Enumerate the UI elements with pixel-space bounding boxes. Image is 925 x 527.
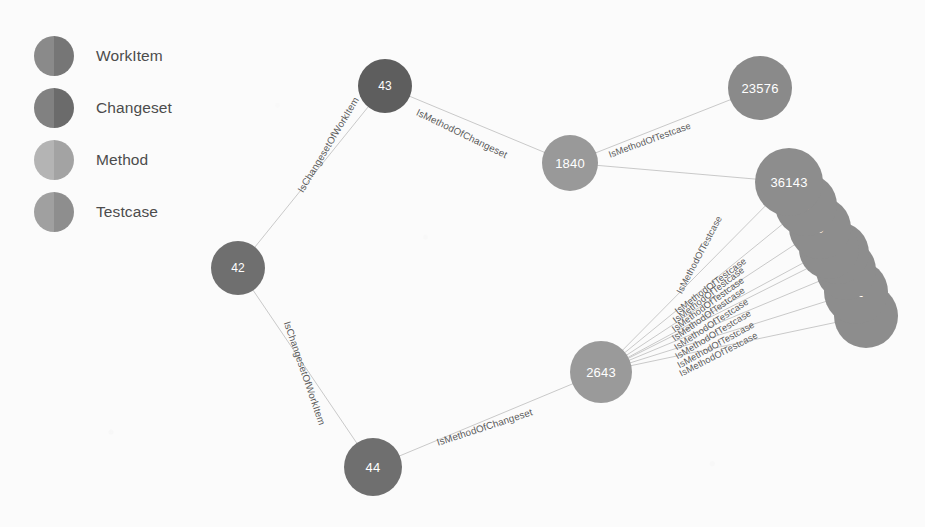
legend-item-changeset[interactable]: Changeset bbox=[34, 82, 244, 134]
legend-item-workitem[interactable]: WorkItem bbox=[34, 30, 244, 82]
graph-node[interactable]: 44 bbox=[344, 438, 402, 496]
graph-node[interactable]: 23576 bbox=[728, 56, 792, 120]
edge-line bbox=[601, 249, 829, 372]
graph-node-label: 42 bbox=[231, 261, 245, 275]
graph-node[interactable]: 36143 bbox=[755, 148, 823, 216]
legend-label-workitem: WorkItem bbox=[96, 47, 163, 65]
legend-swatch-changeset bbox=[34, 88, 74, 128]
graph-node[interactable]: 1840 bbox=[542, 135, 598, 191]
legend-label-changeset: Changeset bbox=[96, 99, 172, 117]
edge-line bbox=[373, 372, 601, 467]
edge-line bbox=[601, 182, 789, 372]
graph-node[interactable]: 42 bbox=[211, 241, 265, 295]
graph-node-label: 23576 bbox=[741, 81, 778, 96]
legend-swatch-workitem bbox=[34, 36, 74, 76]
legend: WorkItem Changeset Method Testcase bbox=[34, 30, 244, 238]
graph-node-label: 1840 bbox=[555, 156, 585, 171]
graph-node-label: 36143 bbox=[770, 175, 807, 190]
graph-visualization: WorkItem Changeset Method Testcase IsC bbox=[0, 0, 925, 527]
swatch-half-right bbox=[54, 140, 74, 180]
swatch-half-right bbox=[54, 88, 74, 128]
edge-line bbox=[601, 228, 820, 372]
legend-swatch-testcase bbox=[34, 192, 74, 232]
edge-line bbox=[385, 86, 570, 163]
edge-line bbox=[238, 86, 385, 268]
edge-line bbox=[601, 253, 838, 372]
graph-node-label: 44 bbox=[366, 460, 381, 475]
edge-line bbox=[601, 270, 846, 372]
edge-line bbox=[601, 292, 856, 372]
edge-line bbox=[238, 268, 373, 467]
graph-node-label: 2643 bbox=[586, 365, 616, 380]
legend-item-testcase[interactable]: Testcase bbox=[34, 186, 244, 238]
swatch-half-left bbox=[34, 140, 54, 180]
legend-label-method: Method bbox=[96, 151, 148, 169]
graph-node[interactable]: 2643 bbox=[570, 341, 632, 403]
swatch-half-right bbox=[54, 192, 74, 232]
legend-item-method[interactable]: Method bbox=[34, 134, 244, 186]
graph-node-label: 43 bbox=[378, 79, 392, 93]
swatch-half-left bbox=[34, 36, 54, 76]
swatch-half-left bbox=[34, 192, 54, 232]
graph-node[interactable]: 43 bbox=[358, 59, 412, 113]
swatch-half-right bbox=[54, 36, 74, 76]
legend-swatch-method bbox=[34, 140, 74, 180]
legend-label-testcase: Testcase bbox=[96, 203, 158, 221]
swatch-half-left bbox=[34, 88, 54, 128]
edge-line bbox=[601, 205, 806, 372]
edge-line bbox=[601, 316, 866, 372]
